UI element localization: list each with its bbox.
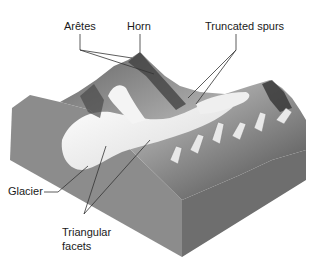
label-triangular-facets-line2: facets (62, 240, 91, 253)
label-aretes: Arêtes (64, 20, 96, 33)
label-truncated-spurs: Truncated spurs (205, 20, 284, 33)
block-diagram (0, 0, 316, 266)
label-horn: Horn (127, 20, 151, 33)
label-triangular-facets-line1: Triangular (62, 226, 111, 239)
glacial-landforms-diagram: Arêtes Horn Truncated spurs Glacier Tria… (0, 0, 316, 266)
label-glacier: Glacier (8, 185, 43, 198)
